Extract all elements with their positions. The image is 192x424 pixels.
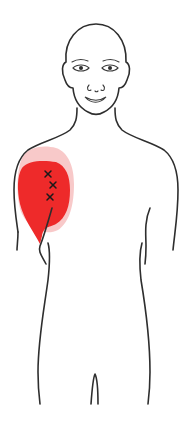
left-pupil — [79, 66, 83, 70]
right-eyebrow — [103, 60, 119, 62]
right-armpit — [145, 208, 150, 264]
mouth — [85, 97, 106, 102]
nose — [88, 85, 105, 92]
body-diagram — [0, 0, 192, 424]
left-torso-side — [38, 243, 50, 404]
left-eyebrow — [72, 60, 88, 62]
leg-gap — [91, 374, 98, 404]
right-torso-side — [140, 243, 150, 404]
right-pupil — [108, 66, 112, 70]
left-arm-outline — [17, 232, 18, 250]
body-outline-svg — [0, 0, 192, 424]
